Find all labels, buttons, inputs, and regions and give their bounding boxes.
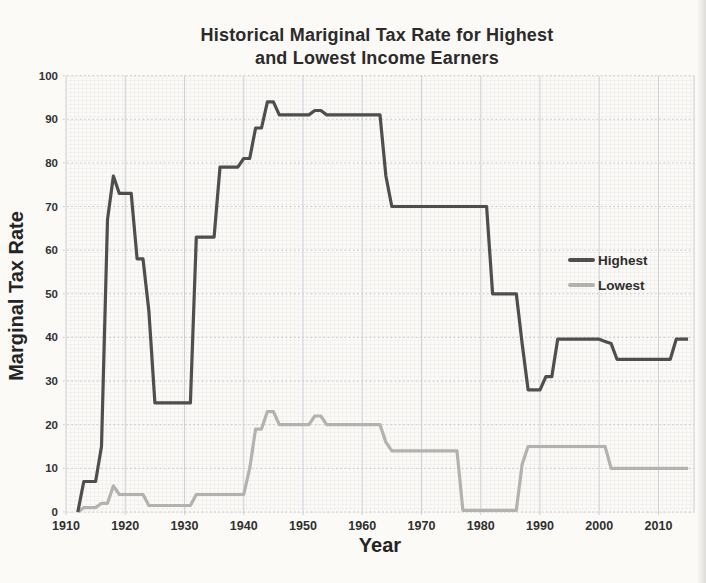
svg-text:70: 70 (45, 201, 58, 213)
svg-text:1940: 1940 (230, 519, 258, 533)
svg-text:1980: 1980 (467, 519, 495, 533)
svg-text:20: 20 (45, 419, 58, 431)
svg-text:1950: 1950 (289, 519, 317, 533)
page-edge-shadow (697, 0, 706, 583)
chart-page: Historical Mariginal Tax Rate for Highes… (0, 0, 706, 583)
svg-text:10: 10 (45, 462, 58, 474)
svg-text:1970: 1970 (408, 519, 436, 533)
svg-text:0: 0 (52, 506, 58, 518)
svg-text:1930: 1930 (171, 519, 199, 533)
highest-line-swatch (568, 258, 595, 262)
x-axis-label: Year (66, 534, 694, 557)
svg-text:1990: 1990 (526, 519, 554, 533)
svg-text:2000: 2000 (585, 519, 613, 533)
svg-text:2010: 2010 (645, 519, 673, 533)
svg-text:30: 30 (45, 375, 58, 387)
svg-text:1920: 1920 (111, 519, 139, 533)
legend-label-highest: Highest (598, 253, 648, 268)
legend-item-lowest: Lowest (568, 276, 648, 294)
legend-item-highest: Highest (568, 251, 648, 269)
svg-text:80: 80 (45, 157, 58, 169)
svg-text:90: 90 (45, 113, 58, 125)
svg-text:60: 60 (45, 244, 58, 256)
svg-text:50: 50 (45, 288, 58, 300)
lowest-line-swatch (568, 283, 595, 287)
svg-text:100: 100 (39, 70, 58, 82)
legend-label-lowest: Lowest (598, 278, 645, 293)
svg-text:1910: 1910 (52, 519, 80, 533)
svg-text:1960: 1960 (348, 519, 376, 533)
svg-text:40: 40 (45, 331, 58, 343)
legend: Highest Lowest (568, 251, 648, 301)
y-axis-label: Marginal Tax Rate (5, 156, 31, 436)
